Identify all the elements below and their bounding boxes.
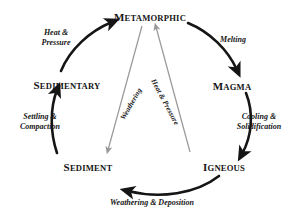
node-metamorphic-initial: M (114, 11, 125, 23)
node-metamorphic: METAMORPHIC (114, 8, 186, 24)
node-metamorphic-rest: ETAMORPHIC (125, 13, 187, 23)
node-magma: MAGMA (213, 77, 252, 93)
node-magma-rest: AGMA (223, 82, 251, 92)
arrow-metamorphic-to-magma (188, 23, 237, 70)
node-sediment-rest: EDIMENT (70, 163, 112, 173)
arrow-igneous-to-sediment (128, 176, 219, 195)
node-magma-initial: M (213, 80, 224, 92)
node-igneous: IGNEOUS (203, 158, 245, 174)
node-igneous-rest: GNEOUS (207, 163, 245, 173)
edge-label-line2: Solidification (237, 122, 281, 132)
edge-label-metamorphic-to-magma: Melting (220, 35, 246, 45)
edge-label-line2: Pressure (42, 38, 71, 48)
node-sedimentary-rest: EDIMENTARY (40, 81, 101, 91)
edge-label-sedimentary-to-metamorphic: Heat & Pressure (42, 28, 71, 48)
node-sedimentary: SEDIMENTARY (33, 76, 100, 92)
edge-label-line1: Heat & (42, 28, 71, 38)
edge-label-line1: Settling & (20, 112, 60, 122)
edge-label-igneous-to-sediment: Weathering & Deposition (110, 198, 194, 208)
edge-label-sediment-to-sedimentary: Settling & Compaction (20, 112, 60, 132)
edge-label-magma-to-igneous: Cooling & Solidification (237, 112, 281, 132)
edge-label-line1: Cooling & (237, 112, 281, 122)
rock-cycle-diagram: METAMORPHIC MAGMA IGNEOUS SEDIMENT SEDIM… (0, 0, 304, 216)
edge-label-line2: Compaction (20, 122, 60, 132)
node-sediment: SEDIMENT (64, 158, 113, 174)
